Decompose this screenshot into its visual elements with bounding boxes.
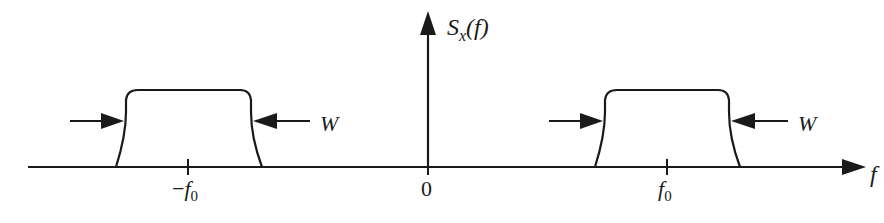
tick-label-neg-f0: −f0 <box>172 176 198 204</box>
width-indicator-right <box>549 113 788 129</box>
tick-label-zero: 0 <box>421 176 432 201</box>
band-right <box>595 90 740 167</box>
x-axis-arrow-icon <box>842 159 866 175</box>
arrow-left-icon <box>731 113 755 129</box>
arrow-right-icon <box>101 113 124 129</box>
band-left <box>116 90 262 167</box>
x-axis-label: f <box>870 161 880 187</box>
bandwidth-label-left: W <box>320 111 340 136</box>
width-indicator-left <box>70 113 310 129</box>
arrow-left-icon <box>253 113 277 129</box>
arrow-right-icon <box>580 113 603 129</box>
y-axis-arrow-icon <box>420 11 436 35</box>
bandwidth-label-right: W <box>798 111 818 136</box>
spectrum-diagram: Sx(f) f W W −f0 0 f0 <box>0 0 884 223</box>
psd-axis <box>420 11 436 167</box>
y-axis-label: Sx(f) <box>447 14 489 44</box>
frequency-axis <box>28 159 866 175</box>
tick-label-f0: f0 <box>658 176 672 204</box>
